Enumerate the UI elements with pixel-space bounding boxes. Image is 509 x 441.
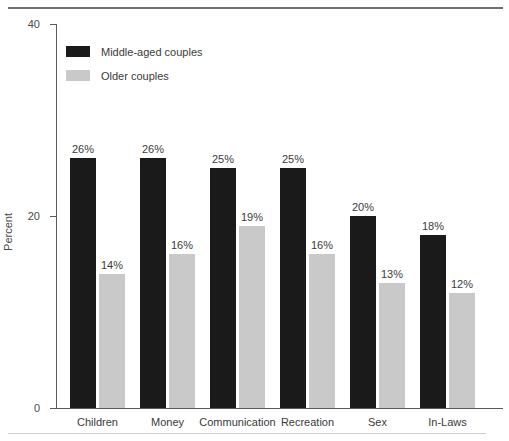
y-axis-line [56, 24, 57, 408]
x-axis-tick-label: Recreation [281, 416, 334, 428]
bar: 20% [350, 216, 376, 408]
bar: 16% [169, 254, 195, 408]
bar-value-label: 20% [352, 201, 374, 213]
bar: 26% [140, 158, 166, 408]
y-axis-title: Percent [2, 213, 14, 251]
bar-value-label: 26% [72, 143, 94, 155]
legend-swatch-icon [66, 46, 90, 57]
x-axis-line [56, 408, 503, 409]
bar: 16% [309, 254, 335, 408]
bar-value-label: 14% [101, 259, 123, 271]
chart-page: Percent 02040 26%14%26%16%25%19%25%16%20… [0, 0, 509, 441]
x-axis-tick-label: Children [77, 416, 118, 428]
bar: 25% [210, 168, 236, 408]
y-axis-tick: 20 [50, 216, 56, 217]
y-axis-tick: 40 [50, 24, 56, 25]
legend: Middle-aged couples Older couples [66, 43, 203, 91]
bar-value-label: 12% [451, 278, 473, 290]
top-divider [8, 7, 503, 9]
y-axis-tick-label: 20 [28, 210, 40, 222]
y-axis-tick-label: 0 [34, 402, 40, 414]
bar: 13% [379, 283, 405, 408]
x-axis-tick-label: Communication [199, 416, 275, 428]
bar-value-label: 25% [282, 153, 304, 165]
bar: 12% [449, 293, 475, 408]
legend-item-middle-aged-couples: Middle-aged couples [66, 43, 203, 60]
bar: 19% [239, 226, 265, 408]
legend-swatch-icon [66, 70, 90, 81]
legend-label: Older couples [101, 70, 169, 82]
x-axis-tick-label: Sex [368, 416, 387, 428]
bar-value-label: 16% [311, 239, 333, 251]
bar-value-label: 19% [241, 211, 263, 223]
legend-item-older-couples: Older couples [66, 67, 203, 84]
bar-value-label: 18% [422, 220, 444, 232]
y-axis-tick-label: 40 [28, 18, 40, 30]
bar-value-label: 26% [142, 143, 164, 155]
bottom-divider [8, 433, 486, 434]
bar: 26% [70, 158, 96, 408]
x-axis-tick-label: In-Laws [428, 416, 467, 428]
bar: 18% [420, 235, 446, 408]
bar: 14% [99, 274, 125, 408]
y-axis-tick: 0 [50, 408, 56, 409]
legend-label: Middle-aged couples [101, 46, 203, 58]
bar-value-label: 13% [381, 268, 403, 280]
bar-value-label: 16% [171, 239, 193, 251]
plot-area: 02040 26%14%26%16%25%19%25%16%20%13%18%1… [56, 24, 503, 408]
x-axis-tick-label: Money [151, 416, 184, 428]
bar: 25% [280, 168, 306, 408]
bar-value-label: 25% [212, 153, 234, 165]
